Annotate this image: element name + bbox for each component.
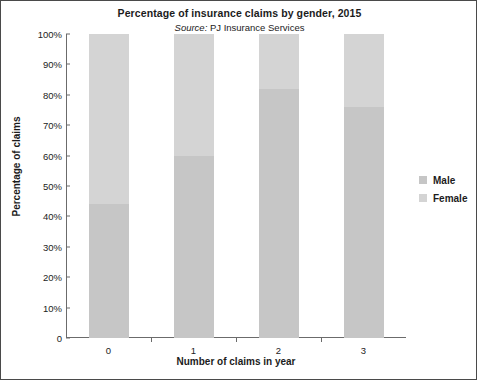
- x-tick-mark: [151, 338, 152, 342]
- y-tick-mark: [66, 64, 70, 65]
- y-tick-label: 0: [57, 333, 66, 344]
- y-tick-mark: [66, 186, 70, 187]
- y-tick-label: 100%: [38, 29, 66, 40]
- stacked-bar[interactable]: [174, 34, 214, 338]
- y-tick: 0: [57, 333, 66, 344]
- y-tick-mark: [66, 338, 70, 339]
- chart-subtitle: Source: PJ Insurance Services: [1, 21, 477, 34]
- y-tick-mark: [66, 125, 70, 126]
- bar-segment-male[interactable]: [344, 107, 384, 338]
- x-tick-mark: [321, 338, 322, 342]
- plot-area: 010%20%30%40%50%60%70%80%90%100% 0123: [66, 34, 406, 338]
- y-tick-label: 20%: [43, 272, 66, 283]
- stacked-bar[interactable]: [344, 34, 384, 338]
- legend-swatch-icon: [419, 194, 427, 202]
- title-block: Percentage of insurance claims by gender…: [1, 6, 477, 34]
- y-tick-mark: [66, 277, 70, 278]
- y-tick: 80%: [43, 89, 66, 100]
- y-tick-label: 70%: [43, 120, 66, 131]
- x-tick-label: 3: [344, 345, 384, 356]
- y-tick: 60%: [43, 150, 66, 161]
- y-tick: 100%: [38, 29, 66, 40]
- y-tick-mark: [66, 216, 70, 217]
- y-tick-label: 10%: [43, 302, 66, 313]
- y-tick: 10%: [43, 302, 66, 313]
- y-tick: 90%: [43, 59, 66, 70]
- x-tick-label: 1: [174, 345, 214, 356]
- chart-subtitle-prefix: Source:: [175, 22, 208, 33]
- y-tick: 40%: [43, 211, 66, 222]
- y-tick-mark: [66, 307, 70, 308]
- legend-item-male[interactable]: Male: [419, 171, 467, 189]
- chart-subtitle-text: PJ Insurance Services: [210, 22, 305, 33]
- bar-group: 3: [344, 34, 384, 338]
- bar-group: 2: [259, 34, 299, 338]
- y-tick-mark: [66, 94, 70, 95]
- y-axis-title: Percentage of claims: [11, 67, 22, 267]
- x-tick-mark: [236, 338, 237, 342]
- y-tick-label: 50%: [43, 181, 66, 192]
- chart-title: Percentage of insurance claims by gender…: [1, 6, 477, 20]
- y-tick-label: 30%: [43, 241, 66, 252]
- legend-item-female[interactable]: Female: [419, 189, 467, 207]
- stacked-bar[interactable]: [89, 34, 129, 338]
- y-tick-label: 90%: [43, 59, 66, 70]
- bar-segment-male[interactable]: [259, 89, 299, 338]
- y-tick: 50%: [43, 181, 66, 192]
- bar-segment-female[interactable]: [259, 34, 299, 89]
- x-tick-label: 2: [259, 345, 299, 356]
- bar-segment-female[interactable]: [174, 34, 214, 156]
- legend-label: Female: [433, 193, 467, 204]
- y-tick: 20%: [43, 272, 66, 283]
- bar-segment-male[interactable]: [174, 156, 214, 338]
- y-tick-label: 80%: [43, 89, 66, 100]
- bar-segment-female[interactable]: [89, 34, 129, 204]
- legend-swatch-icon: [419, 176, 427, 184]
- y-tick-mark: [66, 34, 70, 35]
- x-tick-label: 0: [89, 345, 129, 356]
- x-axis-title: Number of claims in year: [66, 356, 406, 367]
- bar-group: 1: [174, 34, 214, 338]
- bar-group: 0: [89, 34, 129, 338]
- y-tick: 30%: [43, 241, 66, 252]
- stacked-bar[interactable]: [259, 34, 299, 338]
- y-tick-mark: [66, 155, 70, 156]
- y-tick: 70%: [43, 120, 66, 131]
- y-tick-mark: [66, 246, 70, 247]
- legend-label: Male: [433, 175, 455, 186]
- y-tick-label: 60%: [43, 150, 66, 161]
- legend: MaleFemale: [419, 171, 467, 207]
- bar-segment-female[interactable]: [344, 34, 384, 107]
- bar-segment-male[interactable]: [89, 204, 129, 338]
- chart-figure: Percentage of insurance claims by gender…: [0, 0, 477, 380]
- y-tick-label: 40%: [43, 211, 66, 222]
